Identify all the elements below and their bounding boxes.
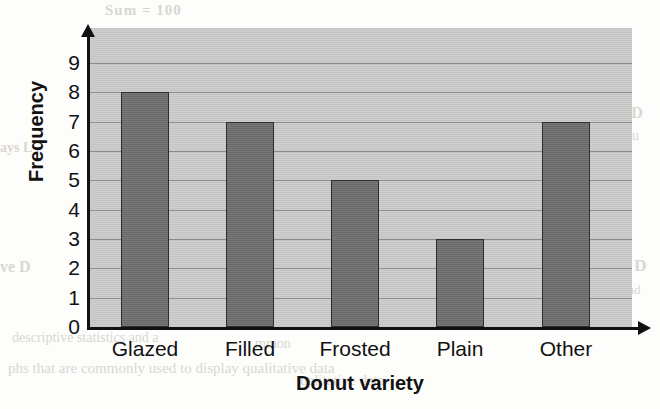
bar-chart-figure: 0123456789 GlazedFilledFrostedPlainOther… bbox=[0, 0, 660, 409]
x-axis-arrow-icon bbox=[638, 321, 651, 335]
y-tick-label: 2 bbox=[58, 257, 80, 278]
y-tick-label: 9 bbox=[58, 52, 80, 73]
y-tick-label: 6 bbox=[58, 140, 80, 161]
x-axis-line bbox=[87, 327, 640, 330]
y-tick-label: 3 bbox=[58, 228, 80, 249]
y-axis-line bbox=[87, 34, 90, 328]
y-tick-label: 0 bbox=[58, 316, 80, 337]
gridline bbox=[88, 63, 632, 64]
y-axis-arrow-icon bbox=[81, 24, 95, 37]
gridline bbox=[88, 92, 632, 93]
x-tick-label: Other bbox=[486, 338, 646, 359]
bar bbox=[331, 180, 379, 327]
bar bbox=[436, 239, 484, 327]
y-tick-label: 8 bbox=[58, 81, 80, 102]
bar bbox=[121, 92, 169, 327]
y-tick-label: 5 bbox=[58, 169, 80, 190]
y-tick-label: 1 bbox=[58, 287, 80, 308]
bar bbox=[226, 122, 274, 327]
bar bbox=[542, 122, 590, 327]
y-tick-label: 7 bbox=[58, 111, 80, 132]
y-tick-label: 4 bbox=[58, 199, 80, 220]
plot-area bbox=[88, 28, 632, 328]
x-axis-title: Donut variety bbox=[88, 372, 632, 395]
y-axis-title: Frequency bbox=[25, 52, 48, 212]
